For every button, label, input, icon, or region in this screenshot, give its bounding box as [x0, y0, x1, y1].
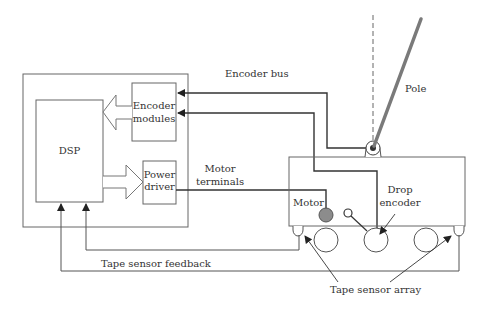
- encoder-to-dsp-arrow-icon: [103, 95, 132, 130]
- power-driver-label-line2: driver: [141, 181, 178, 193]
- dsp-label: DSP: [36, 145, 103, 157]
- encoder-bus-label: Encoder bus: [225, 68, 289, 80]
- tape-sensor-icon-left: [293, 226, 303, 236]
- drop-encoder-pointer: [380, 214, 395, 234]
- motor-terminals-label-line2: terminals: [190, 176, 250, 188]
- cart-pole-system-diagram: DSP Encoder modules Power driver Encoder…: [0, 0, 489, 311]
- tape-sensor-feedback-label: Tape sensor feedback: [101, 258, 211, 270]
- tape-sensor-icon-right: [454, 226, 464, 236]
- motor-label: Motor: [293, 197, 324, 209]
- encoder-modules-label-line2: modules: [130, 113, 178, 125]
- dsp-to-power-driver-arrow-icon: [103, 165, 143, 199]
- drop-encoder-label-line2: encoder: [375, 197, 425, 209]
- encoder-bus-line-pole: [178, 93, 366, 148]
- pole-label: Pole: [405, 83, 426, 95]
- motor-terminals-label-line1: Motor: [190, 163, 250, 175]
- motor-icon: [319, 208, 333, 222]
- encoder-modules-block: [132, 83, 176, 141]
- drop-encoder-arm-pivot: [344, 209, 352, 217]
- drop-encoder-arm: [351, 216, 367, 231]
- drop-encoder-label-line1: Drop: [375, 184, 425, 196]
- drop-encoder-wheel-icon: [364, 228, 388, 252]
- tape-sensor-array-label: Tape sensor array: [330, 284, 421, 296]
- wheel-icon: [314, 228, 338, 252]
- power-driver-label-line1: Power: [141, 169, 178, 181]
- encoder-modules-label-line1: Encoder: [130, 100, 178, 112]
